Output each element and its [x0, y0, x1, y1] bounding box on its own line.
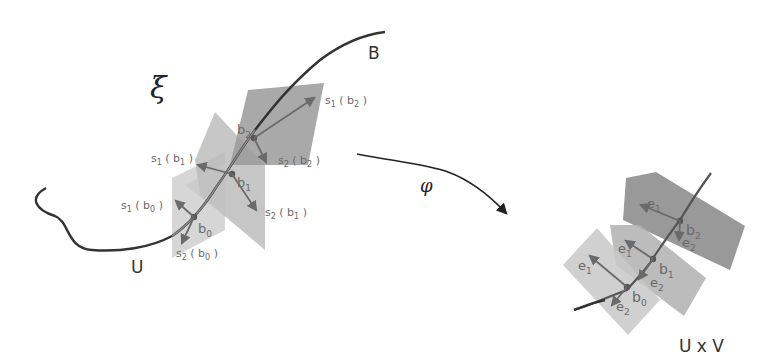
- map-label-phi: φ: [420, 175, 433, 196]
- base-label-B: B: [368, 43, 380, 63]
- diagram-canvas: ξ B U b0 b1 b2 s1 ( b0 ) s2 ( b0 ) s1 ( …: [0, 0, 774, 363]
- arrow-e2-b2: [679, 221, 680, 240]
- open-set-label-U: U: [131, 257, 143, 277]
- label-s2-b1: s2 ( b1 ): [265, 206, 307, 221]
- map-phi: φ: [357, 154, 506, 213]
- label-s1-b1: s1 ( b1 ): [151, 152, 193, 167]
- label-s1-b0: s1 ( b0 ): [121, 199, 163, 214]
- left-panel: ξ B U b0 b1 b2 s1 ( b0 ) s2 ( b0 ) s1 ( …: [36, 32, 385, 277]
- product-label: U x V: [679, 336, 724, 356]
- right-panel: e1 e2 e1 e2 e1 e2 b0 b1 b2 U x V: [563, 172, 745, 356]
- label-s1-b2: s1 ( b2 ): [325, 94, 367, 109]
- bundle-label-xi: ξ: [150, 70, 168, 105]
